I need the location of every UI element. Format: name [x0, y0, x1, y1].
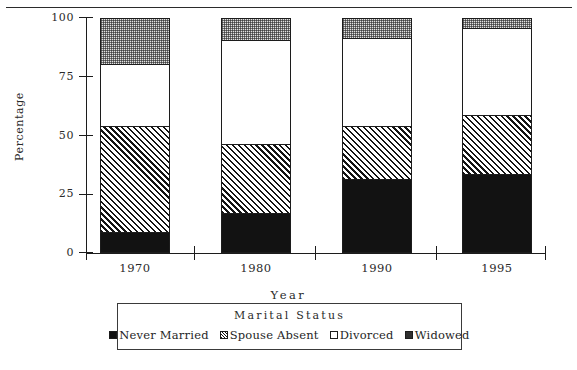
x-axis-tick	[545, 246, 546, 260]
bar-segment	[222, 144, 290, 213]
bar-segment-divider	[343, 126, 411, 127]
legend-swatch-icon	[220, 331, 228, 339]
bar-segment	[101, 126, 169, 232]
y-axis-tick-label-text: 0	[28, 246, 74, 259]
bar-segment-divider	[463, 115, 531, 116]
legend-swatch-icon	[109, 331, 117, 339]
bar-segment-divider	[101, 126, 169, 127]
legend-items: Never MarriedSpouse AbsentDivorcedWidowe…	[118, 328, 461, 342]
bar-segment	[463, 174, 531, 253]
legend-item-label: Never Married	[119, 328, 208, 342]
bar-segment-divider	[222, 144, 290, 145]
bar-segment	[222, 213, 290, 253]
bar-segment-divider	[101, 64, 169, 65]
y-axis-tick-label-text: 100	[28, 11, 74, 24]
legend-item: Spouse Absent	[220, 328, 319, 342]
bar-segment	[101, 232, 169, 253]
bar-segment	[343, 19, 411, 38]
legend-title: Marital Status	[118, 309, 461, 322]
x-axis-tick	[436, 246, 437, 260]
bar-segment	[343, 38, 411, 126]
y-axis-tick-label: 0	[24, 246, 74, 260]
y-axis-tick-label-text: 50	[28, 129, 74, 142]
bar-segment-divider	[222, 40, 290, 41]
y-axis-tick-label: 100	[24, 11, 74, 25]
y-axis-tick-label-text: 75	[28, 70, 74, 83]
y-axis-tick-label: 25	[24, 187, 74, 201]
legend-item: Divorced	[330, 328, 394, 342]
stacked-bar	[342, 18, 412, 253]
y-axis-tick	[79, 76, 93, 77]
stacked-bar	[462, 18, 532, 253]
x-axis-tick	[315, 246, 316, 260]
bar-segment	[101, 64, 169, 126]
bar-segment	[343, 126, 411, 179]
bar-segment-divider	[343, 38, 411, 39]
x-axis-tick	[194, 246, 195, 260]
y-axis-tick-label: 50	[24, 129, 74, 143]
bar-segment	[222, 40, 290, 143]
bar-segment-divider	[222, 213, 290, 214]
bar-segment-divider	[101, 232, 169, 233]
stacked-bar	[100, 18, 170, 253]
bar-segment	[101, 19, 169, 64]
bar-segment-divider	[463, 174, 531, 175]
x-axis-category-label: 1995	[462, 261, 532, 275]
x-axis-category-label: 1980	[221, 261, 291, 275]
y-axis-tick	[79, 194, 93, 195]
x-axis-category-label: 1970	[100, 261, 170, 275]
legend-item-label: Divorced	[340, 328, 394, 342]
legend: Marital Status Never MarriedSpouse Absen…	[117, 303, 462, 350]
bar-segment	[463, 19, 531, 28]
chart-page: 0255075100 1970198019901995 Percentage Y…	[0, 0, 577, 370]
bar-segment-divider	[343, 179, 411, 180]
legend-item: Widowed	[405, 328, 470, 342]
legend-swatch-icon	[405, 331, 413, 339]
x-axis-tick	[86, 246, 87, 260]
bar-segment	[222, 19, 290, 40]
y-axis-tick-label: 75	[24, 70, 74, 84]
bar-segment	[343, 179, 411, 253]
plot-area: 0255075100 1970198019901995 Percentage	[0, 0, 577, 290]
y-axis-title: Percentage	[13, 82, 26, 172]
legend-item-label: Widowed	[415, 328, 470, 342]
bar-segment-divider	[463, 28, 531, 29]
stacked-bar	[221, 18, 291, 253]
bar-segment	[463, 115, 531, 174]
y-axis-tick	[79, 135, 93, 136]
legend-item-label: Spouse Absent	[230, 328, 319, 342]
legend-swatch-icon	[330, 331, 338, 339]
bar-segment	[463, 28, 531, 115]
legend-item: Never Married	[109, 328, 208, 342]
y-axis-tick	[79, 17, 93, 18]
x-axis-category-label: 1990	[342, 261, 412, 275]
x-axis-title: Year	[0, 288, 577, 302]
y-axis-tick-label-text: 25	[28, 187, 74, 200]
